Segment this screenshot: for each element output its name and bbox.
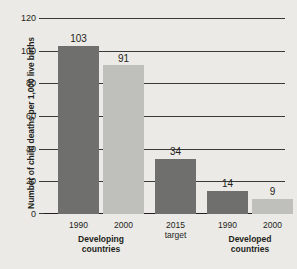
- x-tick-label-target-2015: 2015: [155, 220, 196, 230]
- bar-value-developing-1990: 103: [58, 34, 99, 44]
- y-tick-label-0: 0: [0, 210, 36, 219]
- tick-dash-80: [39, 83, 44, 84]
- plot-area: 120 100 80 60 40 20 0 103 91 34 14 9: [44, 18, 285, 214]
- tick-dash-100: [39, 51, 44, 52]
- bar-developed-1990[interactable]: [207, 191, 248, 214]
- gridline-120: [44, 18, 285, 19]
- bar-value-developed-1990: 14: [207, 179, 248, 189]
- group-label-developed-line1: Developed: [207, 234, 293, 244]
- y-tick-label-120: 120: [0, 14, 36, 23]
- bar-developing-1990[interactable]: [58, 46, 99, 214]
- group-label-developed-line2: countries: [207, 244, 293, 254]
- y-tick-label-40: 40: [0, 145, 36, 154]
- y-tick-label-100: 100: [0, 47, 36, 56]
- y-axis-title: Number of child deaths per 1,000 live bi…: [26, 28, 36, 218]
- x-tick-label-target-suffix: target: [155, 230, 196, 240]
- y-tick-label-20: 20: [0, 177, 36, 186]
- bar-chart: Number of child deaths per 1,000 live bi…: [0, 0, 297, 269]
- y-tick-label-60: 60: [0, 112, 36, 121]
- x-tick-label-developed-2000: 2000: [252, 220, 293, 230]
- bar-developing-2000[interactable]: [103, 65, 144, 214]
- x-tick-label-developing-1990: 1990: [58, 220, 99, 230]
- x-tick-label-developed-1990: 1990: [207, 220, 248, 230]
- group-label-developing-line2: countries: [58, 244, 144, 254]
- group-label-developing-line1: Developing: [58, 234, 144, 244]
- bar-developed-2000[interactable]: [252, 199, 293, 214]
- tick-dash-20: [39, 181, 44, 182]
- bar-target-2015[interactable]: [155, 159, 196, 215]
- bar-value-developing-2000: 91: [103, 54, 144, 64]
- tick-dash-60: [39, 116, 44, 117]
- x-tick-label-developing-2000: 2000: [103, 220, 144, 230]
- cut-off-title-region: [0, 0, 297, 6]
- y-tick-label-80: 80: [0, 79, 36, 88]
- tick-dash-40: [39, 149, 44, 150]
- tick-dash-0: [39, 213, 44, 214]
- tick-dash-120: [39, 18, 44, 19]
- bar-value-target-2015: 34: [155, 147, 196, 157]
- bar-value-developed-2000: 9: [252, 187, 293, 197]
